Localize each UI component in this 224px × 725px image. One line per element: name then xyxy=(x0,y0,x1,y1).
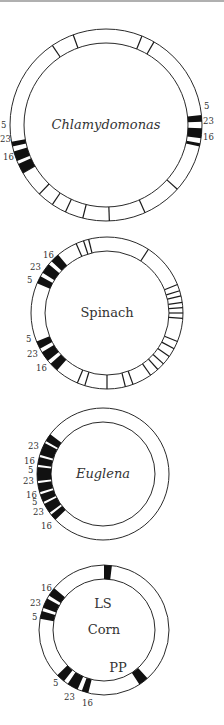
restriction-site-tick xyxy=(148,359,157,369)
restriction-site-tick xyxy=(164,336,177,341)
restriction-site-tick xyxy=(76,244,82,257)
gene-label: 23 xyxy=(28,441,39,451)
gene-label: 23 xyxy=(30,262,41,272)
gene-label: 5 xyxy=(53,678,58,688)
gene-label: 23 xyxy=(0,134,11,144)
restriction-site-tick xyxy=(77,370,82,383)
gene-label: 16 xyxy=(41,521,52,531)
restriction-site-tick xyxy=(85,372,89,385)
rrna-gene-band xyxy=(187,128,202,138)
rrna-gene-band xyxy=(68,672,84,689)
restriction-site-tick xyxy=(52,45,60,57)
restriction-site-tick xyxy=(128,371,133,384)
gene-label: 5 xyxy=(1,120,6,130)
rrna-gene-band xyxy=(188,115,202,122)
rrna-gene-band xyxy=(132,668,148,685)
rrna-gene-band xyxy=(37,467,51,481)
restriction-site-tick xyxy=(137,36,142,49)
gene-label: 16 xyxy=(82,698,93,708)
restriction-site-tick xyxy=(166,291,179,295)
gene-label: 23 xyxy=(30,598,41,608)
rrna-gene-band xyxy=(186,141,200,147)
gene-label: 16 xyxy=(203,132,214,142)
gene-marker-label: PP xyxy=(109,660,127,675)
restriction-site-tick xyxy=(89,239,92,253)
genome-spinach: Spinach1623552316 xyxy=(26,237,183,389)
rrna-gene-band xyxy=(38,457,53,467)
gene-label: 5 xyxy=(28,465,33,475)
restriction-site-tick xyxy=(147,42,154,54)
restriction-site-tick xyxy=(139,200,145,213)
gene-label: 16 xyxy=(41,583,52,593)
rrna-gene-band xyxy=(104,565,112,579)
rrna-gene-band xyxy=(43,264,60,280)
gene-label: 23 xyxy=(33,507,44,517)
gene-label: 5 xyxy=(26,334,31,344)
rrna-gene-band xyxy=(42,345,59,361)
genome-maps: Chlamydomonas5231652316 Spinach162355231… xyxy=(0,0,224,725)
restriction-site-tick xyxy=(169,317,183,318)
gene-label: 16 xyxy=(36,363,47,373)
genome-name: Euglena xyxy=(75,466,130,481)
restriction-site-tick xyxy=(168,302,182,304)
rrna-gene-band xyxy=(82,678,92,693)
rrna-gene-band xyxy=(11,139,26,146)
gene-label: 16 xyxy=(43,250,54,260)
gene-label: 23 xyxy=(64,692,75,702)
gene-label: 23 xyxy=(203,116,214,126)
rrna-gene-band xyxy=(51,354,67,370)
genome-name: Chlamydomonas xyxy=(52,117,161,132)
restriction-site-tick xyxy=(83,205,86,219)
gene-marker-label: LS xyxy=(94,596,112,611)
gene-label: 23 xyxy=(27,349,38,359)
restriction-site-tick xyxy=(162,342,174,349)
restriction-site-tick xyxy=(141,249,149,261)
gene-label: 5 xyxy=(204,101,209,111)
genome-chlamydomonas: Chlamydomonas5231652316 xyxy=(0,29,214,221)
restriction-site-tick xyxy=(143,364,151,375)
genome-corn: Corn1623552316LSPP xyxy=(30,565,169,708)
restriction-site-tick xyxy=(164,285,177,290)
gene-label: 5 xyxy=(32,497,37,507)
restriction-site-tick xyxy=(167,180,177,189)
genome-euglena: Euglena23165231652316 xyxy=(23,408,169,540)
restriction-site-tick xyxy=(84,241,88,254)
restriction-site-tick xyxy=(167,296,181,299)
genome-name: Corn xyxy=(88,622,121,637)
rrna-gene-band xyxy=(38,481,53,492)
gene-label: 16 xyxy=(3,152,14,162)
gene-label: 5 xyxy=(32,612,37,622)
genome-name: Spinach xyxy=(80,305,134,320)
restriction-site-tick xyxy=(65,199,71,212)
restriction-site-tick xyxy=(158,349,169,357)
gene-label: 23 xyxy=(23,476,34,486)
restriction-site-tick xyxy=(153,354,163,363)
restriction-site-tick xyxy=(52,193,60,205)
gene-label: 5 xyxy=(27,275,32,285)
restriction-site-tick xyxy=(73,35,78,48)
restriction-site-tick xyxy=(122,373,125,387)
rrna-gene-band xyxy=(40,611,55,621)
restriction-site-tick xyxy=(169,308,183,309)
restriction-site-tick xyxy=(39,184,49,194)
